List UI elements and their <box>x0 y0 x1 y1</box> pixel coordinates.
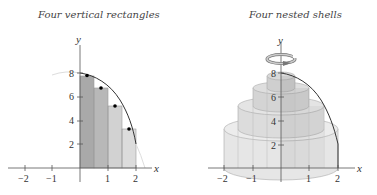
x-tick-label: −1 <box>46 173 57 184</box>
left-chart: −2 −1 1 2 2 4 6 8 x y <box>8 33 159 184</box>
y-tick-label: 8 <box>271 68 276 79</box>
y-tick-label: 4 <box>69 115 74 126</box>
x-tick-label: −2 <box>18 173 29 184</box>
x-axis-label: x <box>153 162 159 174</box>
x-tick-label: −2 <box>217 173 228 184</box>
x-tick-label: −1 <box>246 173 257 184</box>
sample-point <box>113 104 117 108</box>
y-tick-label: 2 <box>271 140 276 151</box>
rectangle-3 <box>108 106 122 168</box>
rectangle-2 <box>94 88 108 168</box>
rotation-arrow-icon <box>267 54 297 66</box>
rectangle-1 <box>80 76 94 168</box>
y-tick-label: 6 <box>271 92 276 103</box>
y-tick-label: 8 <box>69 68 74 79</box>
x-tick-label: 2 <box>133 173 138 184</box>
x-tick-label: 1 <box>105 173 110 184</box>
right-chart: −2 −1 1 2 2 4 6 8 x y <box>208 34 362 184</box>
charts-canvas: −2 −1 1 2 2 4 6 8 x y <box>0 0 377 195</box>
x-axis-label: x <box>356 162 362 174</box>
y-tick-label: 2 <box>69 139 74 150</box>
sample-point <box>99 86 103 90</box>
y-axis-label: y <box>277 34 283 46</box>
x-tick-label: 1 <box>306 173 311 184</box>
y-tick-label: 6 <box>69 91 74 102</box>
sample-point <box>127 127 131 131</box>
x-tick-label: 2 <box>335 173 340 184</box>
y-tick-label: 4 <box>271 116 276 127</box>
y-axis-label: y <box>75 33 81 45</box>
sample-point <box>85 74 89 78</box>
